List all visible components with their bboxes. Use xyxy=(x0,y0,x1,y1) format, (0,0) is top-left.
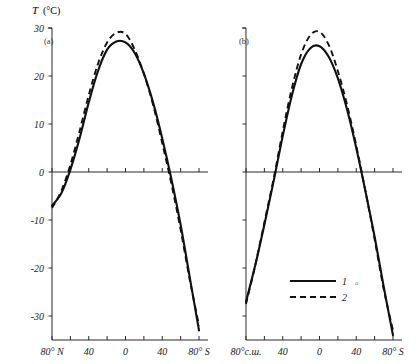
x-tick-label: 40 xyxy=(278,346,288,357)
x-tick-label: 40 xyxy=(84,346,94,357)
x-tick-label: 80° S xyxy=(382,346,404,357)
x-tick-label: 0 xyxy=(317,346,322,357)
legend: 1 a 2 xyxy=(290,276,359,303)
x-tick-label: 80° S xyxy=(188,346,210,357)
panel-a-axes xyxy=(48,28,208,340)
x-tick-label: 40 xyxy=(351,346,361,357)
x-tick-label: 80° N xyxy=(40,346,64,357)
y-tick-label: 0 xyxy=(39,167,44,178)
panel-b: (b) 80°с.ш.4004080° S xyxy=(231,28,404,357)
y-tick-label: -30 xyxy=(31,311,44,322)
legend-label-1: 1 xyxy=(342,276,347,287)
y-tick-label: -10 xyxy=(31,215,44,226)
x-tick-label: 40 xyxy=(157,346,167,357)
panel-b-label: (b) xyxy=(239,36,249,46)
panel-b-axes xyxy=(242,28,402,340)
legend-stray-mark: a xyxy=(355,279,359,287)
panel-b-curve-2 xyxy=(246,31,393,330)
panel-b-tick-labels: 80°с.ш.4004080° S xyxy=(231,346,404,357)
panel-b-curve-1 xyxy=(246,45,393,335)
panel-a-curve-2 xyxy=(52,32,199,326)
y-axis-title-symbol: T xyxy=(32,4,39,16)
y-tick-label: 20 xyxy=(34,71,44,82)
y-tick-label: 30 xyxy=(33,23,44,34)
temperature-latitude-figure: T (°C) (a) 3020100-10-20-3080° N4004080°… xyxy=(0,0,416,364)
panel-a-tick-labels: 3020100-10-20-3080° N4004080° S xyxy=(31,23,210,358)
x-tick-label: 80°с.ш. xyxy=(231,346,262,357)
panel-a-curve-1 xyxy=(52,41,199,331)
x-tick-label: 0 xyxy=(123,346,128,357)
y-tick-label: -20 xyxy=(31,263,44,274)
y-axis-title-unit: (°C) xyxy=(43,5,60,17)
y-tick-label: 10 xyxy=(34,119,44,130)
panel-a: (a) 3020100-10-20-3080° N4004080° S xyxy=(31,23,210,358)
legend-label-2: 2 xyxy=(342,292,347,303)
